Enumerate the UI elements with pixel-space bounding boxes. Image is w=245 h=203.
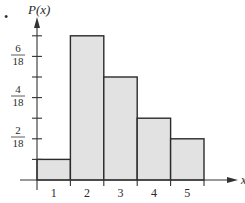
bar-x-5 [171, 139, 204, 180]
fraction-denominator: 18 [13, 96, 25, 108]
bar-x-4 [137, 118, 170, 180]
fraction-numerator: 6 [15, 42, 21, 54]
bar-x-2 [70, 36, 103, 180]
x-axis-label: x [240, 173, 245, 187]
y-tick-label-4-18: 4 18 [11, 83, 25, 108]
x-tick-label-2: 2 [84, 186, 90, 200]
fraction-denominator: 18 [13, 137, 25, 149]
x-tick-label-1: 1 [51, 186, 57, 200]
x-tick-label-3: 3 [118, 186, 124, 200]
y-tick-label-2-18: 2 18 [11, 124, 25, 149]
x-tick-label-4: 4 [151, 186, 157, 200]
histogram-chart: • P(x) x 6 18 4 [0, 0, 245, 203]
bullet-marker: • [4, 10, 8, 24]
bar-x-3 [104, 77, 137, 180]
y-tick-label-6-18: 6 18 [11, 42, 25, 67]
y-axis-label: P(x) [27, 2, 50, 17]
x-tick-label-5: 5 [184, 186, 190, 200]
fraction-denominator: 18 [13, 55, 25, 67]
bars [37, 36, 204, 180]
fraction-numerator: 2 [15, 124, 21, 136]
x-axis-arrow-icon [227, 177, 238, 183]
bar-x-1 [37, 159, 70, 180]
y-axis-arrow-icon [34, 17, 40, 28]
fraction-numerator: 4 [15, 83, 21, 95]
